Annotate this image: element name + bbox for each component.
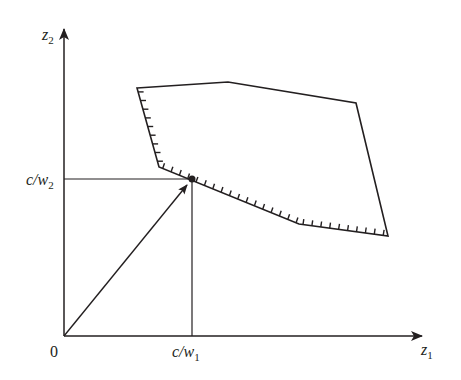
hatch-mark: [204, 180, 206, 185]
hatch-mark: [321, 222, 322, 227]
hatch-mark: [221, 187, 223, 192]
y-axis-label: z2: [41, 26, 54, 46]
feasible-region: [137, 82, 388, 236]
hatch-mark: [246, 197, 248, 202]
hatch-mark: [171, 167, 173, 172]
hatch-mark: [179, 170, 181, 175]
hatch-mark: [348, 225, 349, 230]
hatch-mark: [303, 219, 304, 224]
hatch-mark: [296, 218, 298, 223]
hatch-mark: [163, 163, 165, 168]
hatch-mark: [196, 177, 198, 182]
hatch-mark: [238, 194, 240, 199]
x-axis-label: z1: [420, 341, 433, 361]
hatch-mark: [271, 207, 273, 212]
hatch-mark: [339, 224, 340, 229]
hatch-mark: [279, 211, 281, 216]
hatch-mark: [288, 214, 290, 219]
hatch-mark: [383, 230, 384, 236]
hatch-mark: [229, 191, 231, 196]
weight-vector-arrow: [64, 185, 187, 336]
y-intercept-label: c/w2: [26, 171, 54, 191]
hatch-mark: [254, 201, 256, 206]
hatch-mark: [312, 220, 313, 225]
hatch-mark: [357, 226, 358, 232]
hatch-mark: [374, 229, 375, 235]
hatch-mark: [365, 228, 366, 234]
diagram-canvas: z2 z1 0 c/w2 c/w1: [0, 0, 461, 380]
hatch-mark: [263, 204, 265, 209]
origin-label: 0: [50, 343, 58, 360]
tangent-point: [189, 176, 196, 183]
boundary-hatching: [138, 92, 384, 236]
hatch-mark: [330, 223, 331, 228]
x-intercept-label: c/w1: [172, 343, 200, 363]
hatch-mark: [213, 184, 215, 189]
